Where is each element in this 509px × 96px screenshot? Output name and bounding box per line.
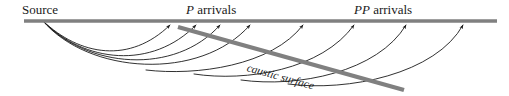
p-phase-symbol: P <box>186 2 194 17</box>
ray-path-p-1 <box>43 21 170 51</box>
p-arrivals-text: arrivals <box>194 2 236 17</box>
ray-path-canvas <box>0 0 509 96</box>
pp-arrivals-label: PP arrivals <box>354 3 412 16</box>
seismic-ray-diagram: Source P arrivals PP arrivals caustic su… <box>0 0 509 96</box>
ray-paths <box>43 21 463 86</box>
pp-phase-symbol: PP <box>354 2 370 17</box>
source-label: Source <box>22 3 58 16</box>
pp-arrivals-text: arrivals <box>370 2 412 17</box>
ray-path-p-5 <box>146 25 303 72</box>
p-arrivals-label: P arrivals <box>186 3 236 16</box>
